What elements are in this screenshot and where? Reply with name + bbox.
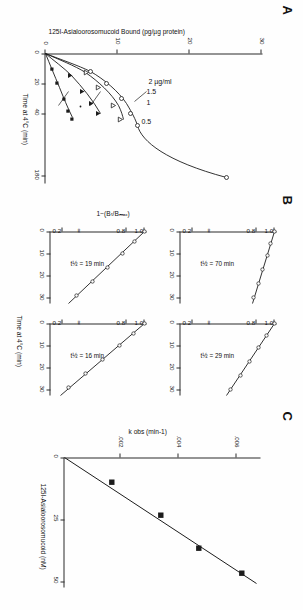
panel-b-subplot-4: 1.0 0.8 0.2 ≃ 0 10 20 30 [37,318,149,402]
panel-a-curve-label-2: 2 µg/ml [149,78,172,85]
panel-b-subplot-2: 1.0 0.8 0.2 ≃ 0 10 20 30 [167,318,279,402]
panel-a-curve-label-0point5: 0.5 [142,118,152,125]
b3-plot [37,226,149,310]
panel-c: C .002 .004 .006 0 25 50 125I- [5,412,297,604]
panel-a-plot [5,6,297,192]
b2-plot [167,318,279,402]
panel-b-label: B [280,196,295,205]
panel-a-curve-label-1: 1 [147,99,151,106]
panel-b: B 1−(Bₜ/Bₘₐₓ) Time at 4°C (min) 1.0 0.8 … [5,196,297,408]
panel-b-x-axis-title: Time at 4°C (min) [16,316,23,368]
figure-root: A 0 10 20 30 0 20 40 [0,0,303,610]
b4-plot [37,318,149,402]
rotated-figure-wrapper: A 0 10 20 30 0 20 40 [0,0,303,610]
panel-c-plot [5,412,297,604]
panel-b-subplot-1: 1.0 0.8 0.2 ≃ 0 10 20 30 [167,226,279,310]
b4-halflife-label: t½ = 16 min [71,352,105,359]
panel-a-curve-label-1point5: 1.5 [147,88,157,95]
b3-halflife-label: t½ = 19 min [71,260,105,267]
panel-a: A 0 10 20 30 0 20 40 [5,6,297,192]
panel-b-subplot-3: 1.0 0.8 0.2 ≃ 0 10 20 30 [37,226,149,310]
figure-sheet: A 0 10 20 30 0 20 40 [0,0,303,610]
panel-b-y-axis-title: 1−(Bₜ/Bₘₐₓ) [97,210,130,218]
b2-halflife-label: t½ = 29 min [201,352,235,359]
b1-plot [167,226,279,310]
b1-halflife-label: t½ = 70 min [201,260,235,267]
